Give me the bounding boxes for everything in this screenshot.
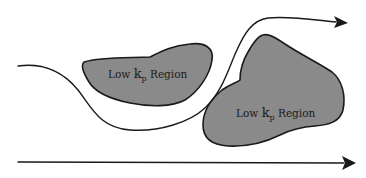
straight-flow-path	[18, 162, 344, 163]
region-shape	[203, 34, 344, 146]
straight-flow-arrow	[18, 156, 356, 170]
low-kp-region-2: Low kp Region	[203, 34, 344, 146]
diagram-canvas: Low kp Region Low kp Region	[0, 0, 366, 178]
low-kp-region-1: Low kp Region	[82, 44, 212, 106]
